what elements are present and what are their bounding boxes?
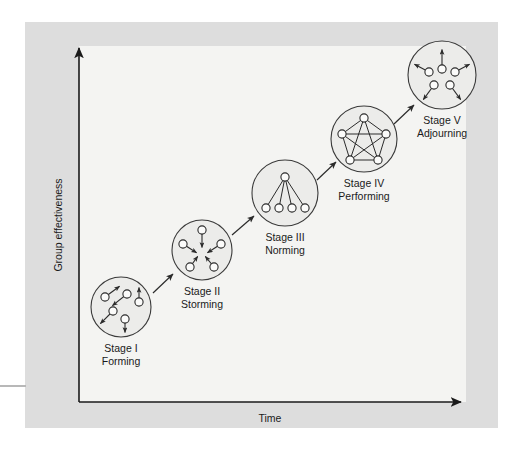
member-node xyxy=(346,156,354,164)
y-axis-label: Group effectiveness xyxy=(52,178,64,271)
stage-group-3: Stage IIINorming xyxy=(252,160,318,256)
member-node xyxy=(217,240,225,248)
member-node xyxy=(338,130,346,138)
x-axis-label: Time xyxy=(259,412,282,424)
member-node xyxy=(438,65,446,73)
stage-boundary-circle xyxy=(252,160,318,226)
member-node xyxy=(430,81,438,89)
member-node xyxy=(382,130,390,138)
member-node xyxy=(186,263,194,271)
stage-transition-arrow-2 xyxy=(232,216,254,235)
member-node xyxy=(198,226,206,234)
stage-number-label-3: Stage III xyxy=(265,231,304,243)
stage-number-label-2: Stage II xyxy=(184,285,220,297)
member-node xyxy=(121,315,129,323)
member-node xyxy=(109,307,117,315)
stage-number-label-4: Stage IV xyxy=(344,177,384,189)
stage-number-label-5: Stage V xyxy=(423,114,460,126)
member-node xyxy=(446,81,454,89)
member-node xyxy=(123,290,131,298)
stage-transition-arrow-1 xyxy=(153,274,173,293)
stage-name-label-1: Forming xyxy=(102,355,141,367)
stage-group-5: Stage VAdjourning xyxy=(408,41,476,139)
member-node xyxy=(301,204,309,212)
member-node xyxy=(425,68,433,76)
tuckman-stages-figure: Stage IFormingStage IIStormingStage IIIN… xyxy=(0,0,524,449)
member-node xyxy=(451,68,459,76)
stage-number-label-1: Stage I xyxy=(104,342,137,354)
member-node xyxy=(210,263,218,271)
member-node xyxy=(135,298,143,306)
member-node xyxy=(288,204,296,212)
stage-name-label-5: Adjourning xyxy=(417,127,467,139)
stage-transition-arrow-3 xyxy=(317,162,336,180)
diagram-canvas: Stage IFormingStage IIStormingStage IIIN… xyxy=(0,0,524,449)
member-node xyxy=(281,173,289,181)
stage-transition-arrow-4 xyxy=(394,105,414,124)
stage-group-4: Stage IVPerforming xyxy=(331,106,397,202)
member-node xyxy=(360,114,368,122)
stage-group-2: Stage IIStorming xyxy=(172,220,232,310)
stage-boundary-circle xyxy=(91,277,151,337)
member-node xyxy=(101,293,109,301)
member-node xyxy=(262,204,270,212)
stage-name-label-4: Performing xyxy=(338,190,390,202)
stage-name-label-2: Storming xyxy=(181,298,223,310)
stages-layer: Stage IFormingStage IIStormingStage IIIN… xyxy=(91,41,476,367)
stage-group-1: Stage IForming xyxy=(91,277,151,367)
member-node xyxy=(179,240,187,248)
member-node xyxy=(275,204,283,212)
stage-name-label-3: Norming xyxy=(265,244,305,256)
member-node xyxy=(374,156,382,164)
